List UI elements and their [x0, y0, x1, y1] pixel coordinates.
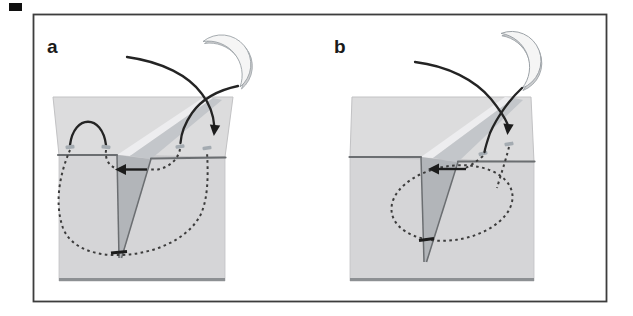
suture-apex-crossing-mark [111, 252, 127, 254]
scan-artifact-mark [9, 3, 22, 11]
suture-wedge-crossing-mark [419, 239, 434, 241]
figure-canvas: a b [0, 0, 633, 316]
figure-stage: a b [0, 0, 633, 316]
tissue-surface-line-right [151, 158, 226, 159]
panel-a-label: a [47, 36, 58, 57]
panel-b-label: b [334, 36, 346, 57]
